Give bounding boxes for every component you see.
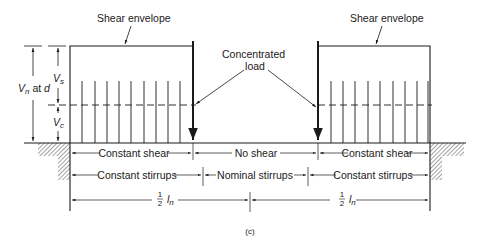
shear-envelope-left-leader <box>125 26 131 44</box>
figure-caption: (c) <box>245 227 255 236</box>
concentrated-load-leader-right <box>268 70 316 107</box>
shear-envelope-right-label: Shear envelope <box>350 12 424 24</box>
svg-text:1: 1 <box>340 190 345 199</box>
beam-shear-diagram: Vn at d Vs Vc Shear envelope Shear envel… <box>0 0 491 247</box>
span-label-left: 1 2 ln <box>157 190 174 208</box>
span-row <box>72 192 428 212</box>
shear-envelope-left-label: Shear envelope <box>97 12 171 24</box>
vn-label: Vn at d <box>18 82 51 96</box>
stirrups-row-label-left: Constant stirrups <box>97 169 176 181</box>
svg-text:1: 1 <box>158 190 163 199</box>
svg-text:ln: ln <box>349 193 356 207</box>
right-support <box>430 143 464 180</box>
stirrups-right <box>331 81 428 143</box>
concentrated-load-leader-left <box>196 70 244 104</box>
shear-row-label-left: Constant shear <box>98 147 170 159</box>
span-label-right: 1 2 ln <box>339 190 356 208</box>
shear-envelope-right-box <box>318 46 430 143</box>
stirrups-row-label-middle: Nominal stirrups <box>217 169 293 181</box>
stirrups-row-label-right: Constant stirrups <box>333 169 412 181</box>
shear-envelope-right-leader <box>376 26 382 44</box>
svg-text:2: 2 <box>158 199 163 208</box>
vs-label: Vs <box>53 72 64 86</box>
shear-row-label-middle: No shear <box>235 147 278 159</box>
stirrups-left <box>82 81 180 143</box>
concentrated-load-label: Concentrated load <box>222 48 288 72</box>
shear-row-label-right: Constant shear <box>341 147 413 159</box>
vc-label: Vc <box>53 116 64 130</box>
svg-text:ln: ln <box>167 193 174 207</box>
left-support <box>38 143 70 180</box>
svg-text:2: 2 <box>340 199 345 208</box>
